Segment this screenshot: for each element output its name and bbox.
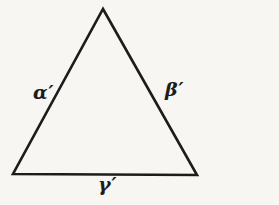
- label-beta-prime: β′: [165, 80, 185, 99]
- triangle-figure: α′ β′ γ′: [0, 0, 279, 205]
- label-gamma-prime: γ′: [98, 175, 118, 194]
- label-alpha-prime: α′: [33, 83, 55, 102]
